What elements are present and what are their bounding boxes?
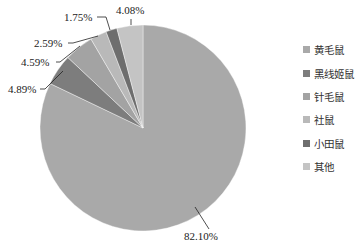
legend: 黄毛鼠 黑线姬鼠 针毛鼠 社鼠 小田鼠 其他 — [303, 38, 354, 178]
legend-swatch — [303, 93, 310, 100]
legend-item-white-bellied-rat: 社鼠 — [303, 108, 354, 131]
label-4-08: 4.08% — [116, 4, 144, 16]
legend-swatch — [303, 46, 310, 53]
legend-label: 黑线姬鼠 — [314, 66, 354, 81]
legend-item-other: 其他 — [303, 155, 354, 178]
legend-label: 社鼠 — [314, 112, 334, 127]
legend-label: 黄毛鼠 — [314, 42, 344, 57]
legend-item-spiny-rat: 针毛鼠 — [303, 85, 354, 108]
label-4-89: 4.89% — [8, 83, 36, 95]
legend-label: 针毛鼠 — [314, 89, 344, 104]
legend-item-striped-field-mouse: 黑线姬鼠 — [303, 61, 354, 84]
label-4-59: 4.59% — [21, 56, 49, 68]
legend-item-small-field-mouse: 小田鼠 — [303, 132, 354, 155]
label-2-59: 2.59% — [34, 37, 62, 49]
leader-line-1-75 — [97, 17, 110, 30]
legend-item-yellow-rat: 黄毛鼠 — [303, 38, 354, 61]
legend-swatch — [303, 116, 310, 123]
legend-label: 其他 — [314, 159, 334, 174]
legend-swatch — [303, 140, 310, 147]
legend-label: 小田鼠 — [314, 136, 344, 151]
label-82-10: 82.10% — [184, 230, 218, 242]
legend-swatch — [303, 70, 310, 77]
legend-swatch — [303, 163, 310, 170]
pie-slices — [40, 25, 246, 231]
label-1-75: 1.75% — [64, 11, 92, 23]
